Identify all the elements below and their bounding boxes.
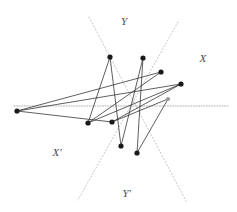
vertex-point-e — [14, 108, 19, 113]
guide-line-asymptote-upper-left-to-lower-right — [89, 17, 186, 201]
vertex-point-i — [118, 143, 123, 148]
guide-line-asymptote-upper-right-to-lower-left — [78, 22, 178, 200]
vertex-point-j — [134, 150, 139, 155]
segment-p9-p2 — [121, 58, 143, 146]
vertex-point-h — [109, 119, 114, 124]
axis-label-x: X — [200, 53, 207, 64]
vertex-point-d — [178, 81, 183, 86]
vertex-point-c — [158, 69, 163, 74]
vertex-point-g — [85, 120, 90, 125]
segment-p7-p1 — [88, 57, 110, 123]
axis-label-xp: X′ — [53, 147, 62, 158]
segment-p7-p4 — [88, 84, 181, 123]
axis-label-yp: Y′ — [123, 188, 132, 199]
vertex-point-a — [107, 54, 112, 59]
vertex-point-b — [140, 55, 145, 60]
axis-label-y: Y — [121, 16, 127, 27]
segment-p10-p6 — [137, 99, 168, 153]
geometric-figure — [0, 0, 237, 212]
polyline-segments-layer — [17, 57, 181, 153]
vertex-point-f — [166, 97, 170, 101]
